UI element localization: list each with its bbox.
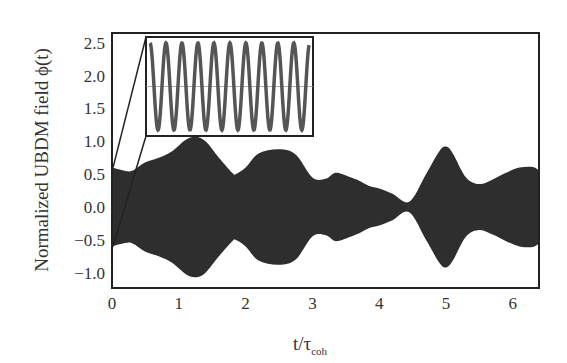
x-axis-label: t/τcoh [293, 333, 328, 357]
y-tick-label: −0.5 [74, 231, 105, 250]
y-tick-label: 0.5 [84, 165, 105, 184]
x-tick-label: 1 [175, 294, 184, 313]
chart: 0123456 −1.0−0.50.00.51.01.52.02.5 t/τco… [0, 0, 567, 363]
x-tick-label: 5 [442, 294, 451, 313]
envelope-fill [112, 137, 540, 278]
x-tick-label: 6 [509, 294, 518, 313]
inset-plot [146, 37, 313, 136]
y-axis-ticks: −1.0−0.50.00.51.01.52.02.5 [74, 34, 105, 283]
connector-line-top [113, 37, 146, 168]
y-tick-label: 2.5 [84, 34, 105, 53]
y-tick-label: 2.0 [84, 67, 105, 86]
x-tick-label: 4 [375, 294, 384, 313]
y-axis-label: Normalized UBDM field ϕ(t) [31, 48, 53, 272]
plot-area [112, 137, 540, 278]
x-tick-label: 3 [308, 294, 317, 313]
x-axis-ticks: 0123456 [108, 294, 517, 313]
y-tick-label: 1.5 [84, 99, 105, 118]
x-tick-label: 0 [108, 294, 117, 313]
y-tick-label: −1.0 [74, 264, 105, 283]
y-tick-label: 0.0 [84, 198, 105, 217]
x-tick-label: 2 [241, 294, 250, 313]
y-tick-label: 1.0 [84, 132, 105, 151]
